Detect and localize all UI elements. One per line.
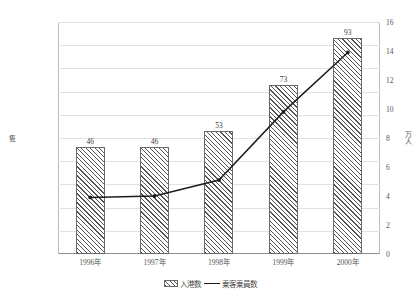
legend-hatched-bar-icon <box>164 280 178 287</box>
x-tick-1999: 1999年 <box>272 256 294 267</box>
bar-2000[interactable]: 93 <box>333 38 362 254</box>
y-right-tick-16: 16 <box>386 19 412 27</box>
bar-1996[interactable]: 46 <box>76 147 105 254</box>
bar-slot-1996: 46 <box>58 22 122 254</box>
bar-slot-1998: 53 <box>187 22 251 254</box>
plot-area: 46 46 53 73 93 <box>58 22 380 254</box>
y-axis-left-title: 隻 <box>8 136 17 143</box>
bar-label-1997: 46 <box>151 137 159 146</box>
legend-item-passenger-count[interactable]: 乗客乗員数 <box>204 278 257 289</box>
x-tick-2000: 2000年 <box>337 256 359 267</box>
y-right-tick-14: 14 <box>386 48 412 56</box>
bar-label-1996: 46 <box>86 137 94 146</box>
x-tick-1998: 1998年 <box>208 256 230 267</box>
bar-slot-1997: 46 <box>122 22 186 254</box>
y-right-tick-2: 2 <box>386 222 412 230</box>
bar-slot-2000: 93 <box>316 22 380 254</box>
y-right-tick-4: 4 <box>386 193 412 201</box>
y-right-tick-6: 6 <box>386 164 412 172</box>
chart-legend: 入港数 乗客乗員数 <box>0 278 420 289</box>
chart-container: 100 90 80 70 60 50 40 30 20 10 0 16 14 1… <box>0 0 420 298</box>
bar-1997[interactable]: 46 <box>140 147 169 254</box>
y-right-tick-0: 0 <box>386 251 412 259</box>
bar-1999[interactable]: 73 <box>269 85 298 254</box>
bar-slot-1999: 73 <box>251 22 315 254</box>
bar-label-1998: 53 <box>215 121 223 130</box>
bar-1998[interactable]: 53 <box>204 131 233 254</box>
bar-label-2000: 93 <box>344 28 352 37</box>
bar-label-1999: 73 <box>280 75 288 84</box>
x-tick-1996: 1996年 <box>79 256 101 267</box>
legend-label-passenger-count: 乗客乗員数 <box>222 278 257 289</box>
legend-label-entry-count: 入港数 <box>180 278 201 289</box>
y-right-tick-12: 12 <box>386 77 412 85</box>
legend-line-icon <box>204 283 220 284</box>
legend-item-entry-count[interactable]: 入港数 <box>164 278 201 289</box>
x-axis-ticks: 1996年 1997年 1998年 1999年 2000年 <box>58 256 380 270</box>
bar-series-entry-count: 46 46 53 73 93 <box>58 22 380 254</box>
y-right-tick-10: 10 <box>386 106 412 114</box>
x-tick-1997: 1997年 <box>144 256 166 267</box>
y-axis-right-title: 万 人 <box>404 132 413 146</box>
